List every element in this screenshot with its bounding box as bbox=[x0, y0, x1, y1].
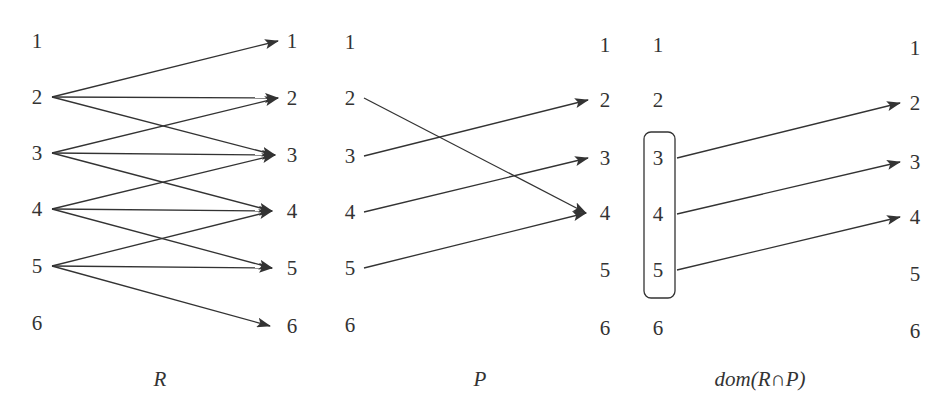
left-node-2: 2 bbox=[653, 88, 664, 112]
right-node-6: 6 bbox=[287, 314, 298, 338]
right-node-3: 3 bbox=[910, 150, 921, 174]
edge-3-to-2 bbox=[677, 103, 900, 158]
left-node-3: 3 bbox=[345, 144, 356, 168]
panel-caption: dom(R∩P) bbox=[715, 367, 806, 391]
left-node-5: 5 bbox=[653, 258, 664, 282]
panel-caption: P bbox=[473, 367, 487, 391]
right-node-2: 2 bbox=[287, 86, 298, 110]
left-node-1: 1 bbox=[345, 30, 356, 54]
right-node-5: 5 bbox=[910, 262, 921, 286]
edge-5-to-5 bbox=[52, 266, 272, 268]
panels-layer: 112233445566R112233445566P112233445566do… bbox=[32, 29, 921, 391]
edge-2-to-4 bbox=[364, 98, 586, 213]
right-node-3: 3 bbox=[600, 146, 611, 170]
right-node-1: 1 bbox=[910, 36, 921, 60]
relation-diagrams: 112233445566R112233445566P112233445566do… bbox=[0, 0, 951, 414]
right-node-5: 5 bbox=[287, 256, 298, 280]
edge-5-to-4 bbox=[52, 211, 272, 266]
edge-2-to-1 bbox=[52, 41, 278, 97]
right-node-1: 1 bbox=[287, 29, 298, 53]
panel-caption: R bbox=[153, 367, 167, 391]
edge-4-to-4 bbox=[52, 209, 272, 211]
left-node-4: 4 bbox=[653, 202, 664, 226]
edge-5-to-4 bbox=[677, 217, 900, 270]
left-node-3: 3 bbox=[653, 146, 664, 170]
right-node-6: 6 bbox=[600, 316, 611, 340]
left-node-5: 5 bbox=[345, 256, 356, 280]
left-node-2: 2 bbox=[345, 86, 356, 110]
edge-4-to-3 bbox=[52, 155, 275, 209]
edge-3-to-2 bbox=[364, 100, 588, 156]
right-node-4: 4 bbox=[600, 201, 611, 225]
right-node-4: 4 bbox=[287, 199, 298, 223]
diagram-canvas: 112233445566R112233445566P112233445566do… bbox=[0, 0, 951, 414]
right-node-3: 3 bbox=[287, 143, 298, 167]
edge-3-to-3 bbox=[52, 153, 275, 155]
panel-P: 112233445566P bbox=[345, 30, 611, 391]
left-node-5: 5 bbox=[32, 254, 43, 278]
left-node-1: 1 bbox=[32, 29, 43, 53]
edge-5-to-6 bbox=[52, 266, 270, 326]
right-node-5: 5 bbox=[600, 258, 611, 282]
edge-4-to-3 bbox=[364, 158, 588, 212]
right-node-2: 2 bbox=[910, 91, 921, 115]
left-node-1: 1 bbox=[653, 33, 664, 57]
edge-2-to-2 bbox=[52, 97, 278, 98]
left-node-2: 2 bbox=[32, 85, 43, 109]
left-node-6: 6 bbox=[32, 311, 43, 335]
right-node-6: 6 bbox=[910, 319, 921, 343]
panel-domRP: 112233445566dom(R∩P) bbox=[644, 33, 921, 391]
left-node-3: 3 bbox=[32, 141, 43, 165]
edge-5-to-4 bbox=[364, 213, 586, 268]
left-node-6: 6 bbox=[345, 313, 356, 337]
right-node-2: 2 bbox=[600, 88, 611, 112]
left-node-4: 4 bbox=[345, 200, 356, 224]
right-node-4: 4 bbox=[910, 205, 921, 229]
edge-4-to-3 bbox=[677, 162, 900, 214]
left-node-6: 6 bbox=[653, 316, 664, 340]
right-node-1: 1 bbox=[600, 33, 611, 57]
panel-R: 112233445566R bbox=[32, 29, 298, 391]
left-node-4: 4 bbox=[32, 197, 43, 221]
